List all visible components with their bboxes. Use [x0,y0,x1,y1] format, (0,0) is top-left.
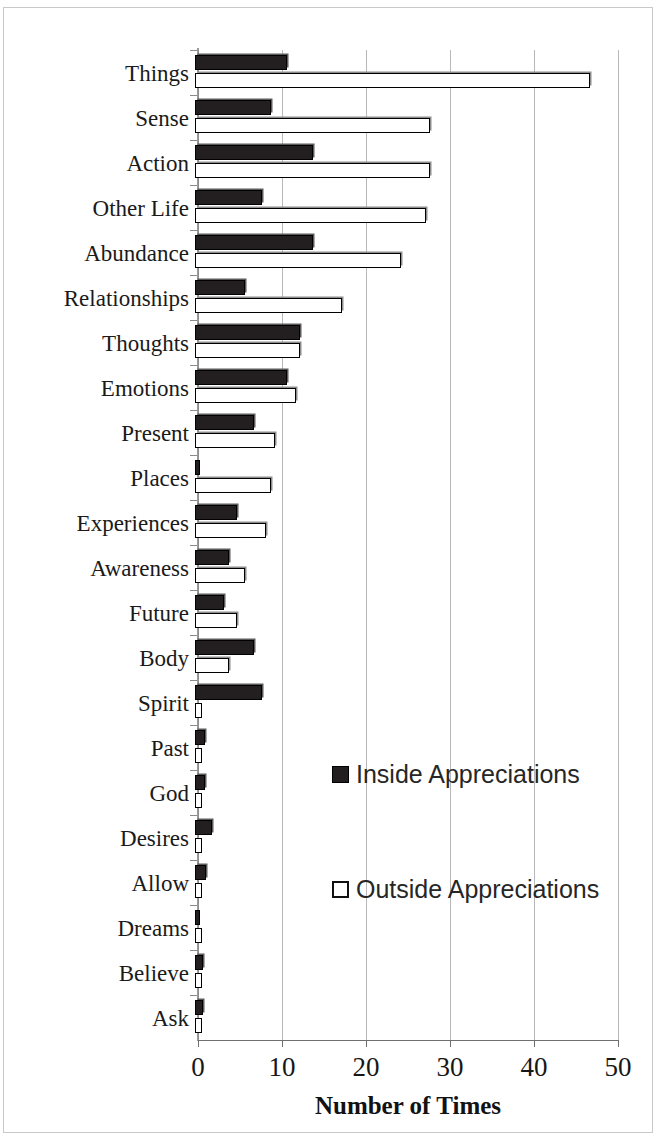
x-tick-label-0: 0 [191,1054,205,1081]
bar-inside-abundance [195,235,313,250]
category-label-believe: Believe [119,961,189,984]
bar-outside-spirit [195,703,202,718]
x-tick-0 [198,1040,199,1047]
hollow-square-icon [332,881,349,898]
legend-label-outside: Outside Appreciations [356,877,599,902]
filled-square-icon [332,766,349,783]
category-row: Desires [0,815,657,860]
category-row: Sense [0,95,657,140]
bar-inside-things [195,55,287,70]
chart-frame: ThingsSenseActionOther LifeAbundanceRela… [3,7,653,1133]
category-label-action: Action [126,151,189,174]
category-row: Dreams [0,905,657,950]
category-label-abundance: Abundance [84,241,189,264]
bar-inside-thoughts [195,325,300,340]
bar-outside-emotions [195,388,296,403]
bar-inside-body [195,640,254,655]
bar-outside-other-life [195,208,426,223]
category-row: Relationships [0,275,657,320]
x-tick-label-50: 50 [605,1054,632,1081]
x-tick-label-30: 30 [437,1054,464,1081]
bar-outside-experiences [195,523,266,538]
x-tick-label-40: 40 [521,1054,548,1081]
bar-inside-ask [195,1000,203,1015]
category-row: Experiences [0,500,657,545]
bar-inside-believe [195,955,203,970]
bar-outside-desires [195,838,202,853]
bar-inside-experiences [195,505,237,520]
bar-inside-dreams [195,910,200,925]
bar-outside-thoughts [195,343,300,358]
x-tick-50 [618,1040,619,1047]
bar-outside-dreams [195,928,202,943]
bar-inside-other-life [195,190,262,205]
category-row: Abundance [0,230,657,275]
bar-inside-future [195,595,224,610]
legend-label-inside: Inside Appreciations [356,762,580,787]
bar-inside-sense [195,100,271,115]
bar-outside-believe [195,973,202,988]
bar-inside-action [195,145,313,160]
category-label-body: Body [139,646,189,669]
x-axis-title: Number of Times [198,1093,618,1118]
bar-outside-sense [195,118,430,133]
category-label-thoughts: Thoughts [102,331,189,354]
bar-outside-past [195,748,202,763]
bar-inside-emotions [195,370,287,385]
legend-entry-outside-appreciations: Outside Appreciations [332,877,599,902]
bar-outside-future [195,613,237,628]
bar-inside-spirit [195,685,262,700]
category-label-relationships: Relationships [64,286,189,309]
bar-inside-awareness [195,550,229,565]
bar-outside-ask [195,1018,202,1033]
bar-outside-action [195,163,430,178]
category-row: Awareness [0,545,657,590]
category-label-god: God [149,781,189,804]
bar-inside-god [195,775,205,790]
bar-inside-relationships [195,280,245,295]
category-row: Present [0,410,657,455]
category-label-awareness: Awareness [90,556,189,579]
category-row: Body [0,635,657,680]
bar-outside-awareness [195,568,245,583]
category-label-present: Present [121,421,189,444]
category-row: Places [0,455,657,500]
category-row: Thoughts [0,320,657,365]
category-label-allow: Allow [132,871,190,894]
bar-inside-present [195,415,254,430]
bar-outside-body [195,658,229,673]
category-label-past: Past [151,736,189,759]
bar-outside-god [195,793,202,808]
x-tick-30 [450,1040,451,1047]
category-label-dreams: Dreams [117,916,189,939]
x-tick-40 [534,1040,535,1047]
category-row: Ask [0,995,657,1040]
category-row: Other Life [0,185,657,230]
bar-outside-abundance [195,253,401,268]
category-label-sense: Sense [135,106,189,129]
x-tick-20 [366,1040,367,1047]
category-row: Emotions [0,365,657,410]
category-row: Action [0,140,657,185]
bar-inside-desires [195,820,212,835]
category-row: Believe [0,950,657,995]
bar-outside-allow [195,883,202,898]
bar-outside-things [195,73,590,88]
category-label-desires: Desires [120,826,189,849]
category-label-emotions: Emotions [101,376,189,399]
x-tick-label-20: 20 [353,1054,380,1081]
category-label-spirit: Spirit [138,691,189,714]
bar-inside-past [195,730,205,745]
category-row: Things [0,50,657,95]
category-row: Future [0,590,657,635]
category-label-experiences: Experiences [77,511,189,534]
x-tick-10 [282,1040,283,1047]
bar-outside-relationships [195,298,342,313]
category-label-ask: Ask [152,1006,189,1029]
category-label-places: Places [130,466,189,489]
bar-inside-allow [195,865,206,880]
bar-outside-present [195,433,275,448]
bar-outside-places [195,478,271,493]
category-row: Spirit [0,680,657,725]
x-axis-line [198,1040,619,1041]
